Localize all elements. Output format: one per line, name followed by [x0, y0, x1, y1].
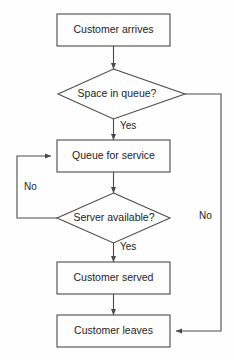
node-queue-for-service-label: Queue for service [72, 149, 155, 161]
node-customer-leaves-label: Customer leaves [74, 324, 153, 336]
node-space-in-queue-label: Space in queue? [78, 87, 157, 99]
node-queue-for-service[interactable]: Queue for service [57, 140, 170, 172]
node-customer-served[interactable]: Customer served [57, 262, 170, 294]
node-space-in-queue[interactable]: Space in queue? [58, 69, 185, 119]
edge-server-no-to-queue [17, 156, 57, 218]
edge-label-server-yes: Yes [120, 241, 136, 252]
edge-label-space-no: No [199, 210, 212, 221]
flowchart-svg: Customer arrives Space in queue? Queue f… [0, 0, 234, 360]
node-customer-arrives[interactable]: Customer arrives [57, 14, 170, 46]
node-customer-arrives-label: Customer arrives [74, 23, 154, 35]
node-server-available[interactable]: Server available? [57, 193, 170, 243]
edge-label-space-yes: Yes [120, 120, 136, 131]
node-server-available-label: Server available? [73, 211, 154, 223]
edge-label-server-no: No [24, 181, 37, 192]
node-customer-leaves[interactable]: Customer leaves [57, 315, 170, 347]
flowchart-canvas: Customer arrives Space in queue? Queue f… [0, 0, 234, 360]
node-customer-served-label: Customer served [74, 271, 154, 283]
